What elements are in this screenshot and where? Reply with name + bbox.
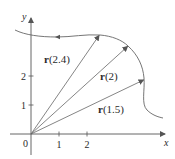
- vector-label-r-2: r(2): [100, 70, 118, 83]
- figure-canvas: y x 0 1 2 1 2 r(2.4) r(2) r(1.5): [0, 0, 175, 159]
- vector-function-figure: y x 0 1 2 1 2 r(2.4) r(2) r(1.5): [0, 0, 175, 159]
- x-tick-label-2: 2: [85, 139, 90, 150]
- vector-r-2-4: [31, 36, 99, 135]
- y-axis-label: y: [21, 11, 27, 22]
- space-curve: [15, 30, 163, 118]
- x-axis-label: x: [163, 137, 169, 148]
- x-tick-label-1: 1: [57, 139, 62, 150]
- vector-label-r-1-5: r(1.5): [98, 103, 124, 116]
- y-tick-label-2: 2: [21, 71, 26, 82]
- origin-label: 0: [23, 138, 28, 149]
- y-tick-label-1: 1: [21, 100, 26, 111]
- curve-direction-arrow-icon: [55, 35, 60, 39]
- vector-r-1-5: [31, 80, 144, 134]
- vector-label-r-2-4: r(2.4): [44, 53, 70, 66]
